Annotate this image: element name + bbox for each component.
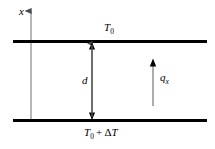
- bottom-plate-temperature-label: T0 + ΔT: [84, 127, 118, 141]
- heat-flux-arrow-head: [150, 59, 156, 67]
- gap-distance-label: d: [82, 75, 88, 86]
- top-plate-temperature-label: T0: [104, 22, 114, 36]
- heat-flux-label: qx: [160, 72, 169, 86]
- x-axis-label: x: [19, 6, 24, 17]
